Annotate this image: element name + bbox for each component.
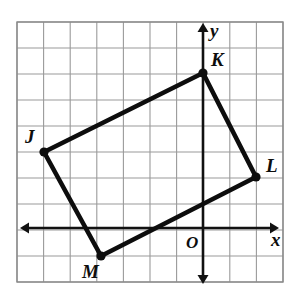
vertex-dot-j <box>39 147 48 156</box>
vertex-dot-m <box>96 251 105 260</box>
vertex-dot-k <box>198 68 207 77</box>
origin-label: O <box>186 233 198 252</box>
x-axis-label: x <box>270 229 281 250</box>
vertex-label-j: J <box>24 126 35 147</box>
x-axis-arrow-left-icon <box>20 223 29 234</box>
vertex-label-m: M <box>81 261 100 282</box>
vertex-label-k: K <box>210 49 225 70</box>
vertex-label-l: L <box>265 155 278 176</box>
y-axis-label: y <box>208 20 219 41</box>
y-axis-arrow-up-icon <box>198 23 209 32</box>
vertex-dot-l <box>251 172 260 181</box>
vertex-labels: JKLM <box>24 49 278 282</box>
geometry-diagram-canvas: JKLM x y O <box>0 0 297 299</box>
coordinate-grid-figure: JKLM x y O <box>0 0 297 299</box>
